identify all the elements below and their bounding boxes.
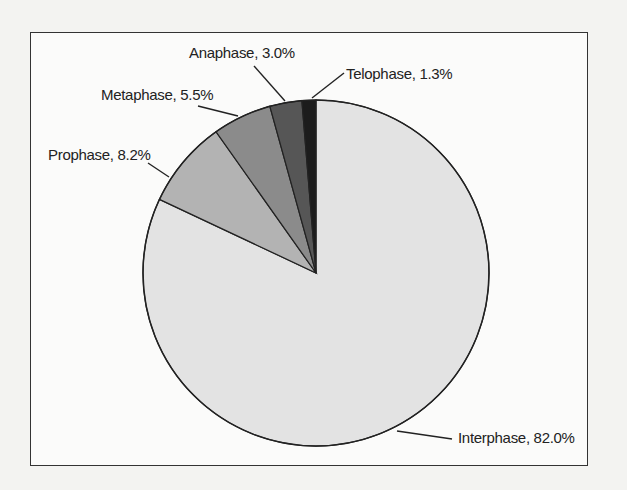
pie-chart: Interphase, 82.0% Prophase, 8.2% Metapha…: [0, 0, 627, 490]
leader-interphase: [397, 431, 452, 439]
leader-anaphase: [254, 66, 285, 101]
label-anaphase: Anaphase, 3.0%: [189, 44, 295, 61]
pie-slices: [143, 100, 489, 446]
leader-metaphase: [198, 106, 238, 116]
label-interphase: Interphase, 82.0%: [458, 429, 575, 446]
label-metaphase: Metaphase, 5.5%: [101, 86, 213, 103]
label-prophase: Prophase, 8.2%: [48, 146, 151, 163]
leader-telophase: [312, 73, 344, 98]
leader-prophase: [148, 163, 169, 177]
label-telophase: Telophase, 1.3%: [346, 65, 452, 82]
